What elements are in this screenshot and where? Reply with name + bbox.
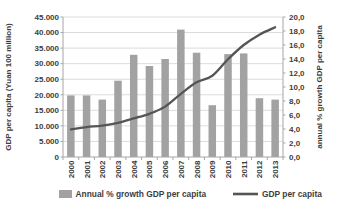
bar-2000: [67, 95, 75, 157]
x-tick-label: 2001: [83, 160, 92, 178]
right-tick-label: 4,0: [289, 125, 301, 134]
legend: Annual % growth GDP per capitaGDP per ca…: [59, 189, 322, 199]
left-tick-label: 15.000: [35, 106, 60, 115]
left-tick-label: 40.000: [35, 28, 60, 37]
bar-2009: [209, 105, 217, 157]
x-tick-label: 2010: [224, 160, 233, 178]
x-tick-label: 2011: [240, 160, 249, 178]
x-tick-label: 2002: [98, 160, 107, 178]
x-tick-label: 2007: [177, 160, 186, 178]
legend-label-growth: Annual % growth GDP per capita: [76, 189, 207, 199]
x-tick-label: 2009: [208, 160, 217, 178]
right-tick-label: 0,0: [289, 153, 301, 162]
bar-2013: [271, 100, 279, 157]
bar-2010: [224, 54, 232, 157]
right-tick-label: 14,0: [289, 55, 305, 64]
x-tick-label: 2003: [114, 160, 123, 178]
legend-bar-swatch: [59, 190, 72, 198]
right-tick-label: 2,0: [289, 139, 301, 148]
bar-2012: [256, 98, 264, 157]
bar-2011: [240, 53, 248, 157]
left-tick-label: 25.000: [35, 75, 60, 84]
x-tick-label: 2012: [255, 160, 264, 178]
legend-label-gdp: GDP per capita: [262, 189, 322, 199]
right-tick-label: 10,0: [289, 83, 305, 92]
right-axis-title: annual % growth GDP per capita: [315, 25, 324, 149]
gdp-combo-chart: 05.00010.00015.00020.00025.00030.00035.0…: [0, 0, 343, 212]
left-tick-label: 5.000: [39, 137, 60, 146]
x-tick-label: 2006: [161, 160, 170, 178]
x-tick-label: 2013: [271, 160, 280, 178]
right-tick-label: 8,0: [289, 97, 301, 106]
bar-2008: [193, 53, 201, 157]
x-tick-label: 2005: [145, 160, 154, 178]
x-tick-label: 2004: [130, 160, 139, 178]
left-tick-label: 45.000: [35, 13, 60, 22]
bar-2003: [114, 81, 122, 157]
right-tick-label: 6,0: [289, 111, 301, 120]
left-tick-label: 20.000: [35, 91, 60, 100]
x-tick-label: 2008: [193, 160, 202, 178]
left-axis-title: GDP per capita (Yuan 100 million): [4, 23, 13, 151]
left-tick-label: 10.000: [35, 122, 60, 131]
right-tick-label: 18,0: [289, 27, 305, 36]
bar-2004: [130, 55, 138, 157]
left-tick-label: 0: [55, 153, 60, 162]
right-tick-label: 20,0: [289, 13, 305, 22]
left-tick-label: 35.000: [35, 44, 60, 53]
bar-2002: [99, 100, 107, 157]
right-tick-label: 12,0: [289, 69, 305, 78]
left-tick-label: 30.000: [35, 59, 60, 68]
combo-chart-svg: 05.00010.00015.00020.00025.00030.00035.0…: [0, 0, 343, 212]
x-tick-label: 2000: [67, 160, 76, 178]
right-tick-label: 16,0: [289, 41, 305, 50]
bar-2005: [146, 66, 154, 157]
